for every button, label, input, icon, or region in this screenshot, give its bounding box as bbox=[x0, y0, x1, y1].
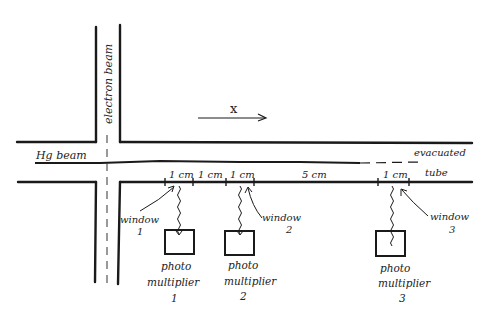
window-1-label: window bbox=[120, 214, 160, 225]
pm-2-line1: photo bbox=[228, 259, 258, 271]
electron-beam-label: electron beam bbox=[102, 44, 115, 124]
electron-tube-right-wall-bottom bbox=[118, 182, 120, 284]
window-2-label: window bbox=[262, 212, 302, 223]
window-1-number: 1 bbox=[137, 226, 143, 237]
distance-label-2: 1 cm bbox=[198, 169, 223, 180]
direction-label: x bbox=[230, 101, 238, 116]
distance-label-5: 1 cm bbox=[383, 169, 408, 180]
hg-beam-label: Hg beam bbox=[35, 149, 87, 162]
window-3-number: 3 bbox=[449, 224, 455, 235]
distance-label-4: 5 cm bbox=[302, 169, 327, 180]
tube-top-wall-right bbox=[120, 142, 472, 143]
hg-beam-dashed bbox=[360, 162, 420, 163]
window-1-pointer bbox=[140, 187, 174, 211]
pm-2-line2: multiplier bbox=[224, 275, 277, 287]
pm-3-line1: photo bbox=[380, 262, 410, 274]
pm-1-number: 1 bbox=[171, 292, 178, 304]
window-3-pointer bbox=[402, 190, 428, 216]
evacuated-label: evacuated bbox=[414, 147, 466, 158]
apparatus-diagram: x electron beam Hg beam evacuated tube 1… bbox=[0, 0, 503, 320]
pm-2-number: 2 bbox=[239, 290, 247, 302]
pm-3-line2: multiplier bbox=[378, 277, 431, 289]
pm-3-number: 3 bbox=[399, 292, 406, 304]
window-3-label: window bbox=[430, 211, 470, 222]
window-2-number: 2 bbox=[285, 224, 292, 235]
electron-tube-left-wall-bottom bbox=[95, 182, 96, 282]
pm-1-line1: photo bbox=[161, 260, 191, 272]
light-path-3 bbox=[391, 186, 394, 246]
pm-1-line2: multiplier bbox=[147, 276, 200, 288]
tube-label: tube bbox=[425, 167, 448, 178]
distance-label-1: 1 cm bbox=[169, 169, 194, 180]
window-2-pointer bbox=[248, 188, 262, 218]
light-path-1 bbox=[178, 186, 181, 234]
distance-label-3: 1 cm bbox=[230, 169, 255, 180]
light-path-2 bbox=[239, 186, 242, 234]
